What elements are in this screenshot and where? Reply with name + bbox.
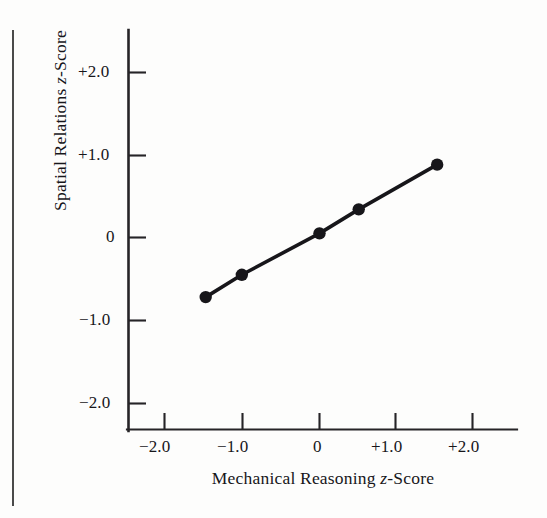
- x-axis-title-head: Mechanical Reasoning: [212, 468, 380, 488]
- y-axis-title: Spatial Relations z-Score: [50, 1, 71, 241]
- x-tick-label-1: +1.0: [371, 437, 402, 457]
- y-axis-ticks: [129, 73, 146, 404]
- x-tick-label-neg1: −1.0: [217, 437, 248, 457]
- x-axis-title: Mechanical Reasoning z-Score: [128, 468, 518, 489]
- y-tick-label-0: 0: [106, 227, 115, 247]
- y-axis-title-z: z: [50, 77, 70, 84]
- x-tick-label-2: +2.0: [448, 437, 479, 457]
- y-axis-title-head: Spatial Relations: [50, 84, 70, 211]
- data-point-4: [431, 158, 443, 170]
- x-axis-ticks: [165, 413, 473, 429]
- x-tick-label-0: 0: [313, 437, 322, 457]
- data-point-2: [313, 227, 325, 239]
- data-point-0: [199, 291, 211, 303]
- y-axis-title-tail: -Score: [50, 30, 70, 77]
- data-point-1: [236, 269, 248, 281]
- y-tick-label-1: +1.0: [78, 145, 109, 165]
- x-tick-label-neg2: −2.0: [139, 437, 170, 457]
- y-tick-label-2: +2.0: [78, 62, 109, 82]
- x-axis-title-tail: -Score: [387, 468, 434, 488]
- data-point-3: [353, 203, 365, 215]
- figure-container: +2.0 +1.0 0 −1.0 −2.0 −2.0 −1.0 0 +1.0 +…: [0, 0, 547, 518]
- y-tick-label-neg1: −1.0: [79, 310, 110, 330]
- y-tick-label-neg2: −2.0: [79, 393, 110, 413]
